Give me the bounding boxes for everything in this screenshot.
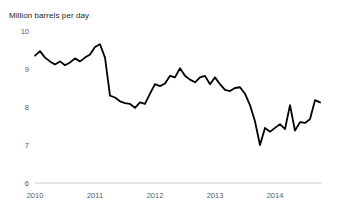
x-axis-tick-label: 2014	[267, 191, 284, 200]
y-axis-tick-label: 8	[25, 103, 29, 112]
data-series-line	[35, 44, 320, 145]
y-axis-tick-label: 9	[25, 65, 29, 74]
x-axis-ticks: 20102011201220132014	[27, 191, 284, 200]
x-axis-tick-label: 2012	[147, 191, 164, 200]
line-chart: Million barrels per day 109876 201020112…	[0, 0, 338, 216]
y-axis-tick-label: 10	[21, 27, 29, 36]
x-axis-tick-label: 2013	[207, 191, 224, 200]
chart-plot-area: 109876 20102011201220132014	[0, 0, 338, 216]
y-axis-tick-label: 6	[25, 179, 29, 188]
x-axis-tick-label: 2010	[27, 191, 44, 200]
y-axis-ticks: 109876	[21, 27, 29, 188]
y-axis-tick-label: 7	[25, 141, 29, 150]
x-axis-tick-label: 2011	[87, 191, 103, 200]
